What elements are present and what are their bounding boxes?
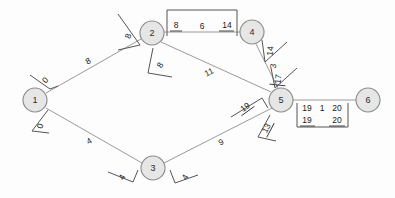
edge-weight-2-5: 11 xyxy=(203,65,216,78)
bracket-2-4-right-value: 14 xyxy=(222,20,232,30)
node-5[interactable]: 5 xyxy=(269,88,293,112)
node-4-label: 4 xyxy=(249,27,254,37)
bracket-5-6-top-mid: 1 xyxy=(320,103,325,113)
node-4[interactable]: 4 xyxy=(240,20,264,44)
annotation-n4-bottom: 17 xyxy=(273,74,284,85)
node-2-label: 2 xyxy=(149,28,154,38)
node-6-label: 6 xyxy=(365,95,370,105)
annotation-n5-bottom: 13 xyxy=(259,121,272,134)
annotation-n3-left: 4 xyxy=(116,172,127,181)
annotation-n2-bottom: 8 xyxy=(154,60,165,69)
node-1[interactable]: 1 xyxy=(23,88,47,112)
edge-weight-3-5: 9 xyxy=(217,136,226,147)
edge-1-3 xyxy=(46,108,142,163)
node-6[interactable]: 6 xyxy=(356,88,380,112)
edge-3-5 xyxy=(164,108,272,163)
graph-svg: 8 4 6 11 9 3 xyxy=(0,0,395,198)
node-1-label: 1 xyxy=(32,95,37,105)
annotation-n4-top: 14 xyxy=(265,46,276,57)
bracket-2-4-left-value: 8 xyxy=(174,20,179,30)
edge-weight-4-5: 3 xyxy=(268,63,278,69)
bracket-5-6-bottom-left: 19 xyxy=(302,115,312,125)
diagram-canvas: 8 4 6 11 9 3 xyxy=(0,0,395,198)
node-5-label: 5 xyxy=(278,95,283,105)
annotation-bracket-n2-left xyxy=(118,14,140,50)
annotation-n3-right: 4 xyxy=(179,172,190,181)
bracket-5-6-top-left: 19 xyxy=(302,103,312,113)
node-2[interactable]: 2 xyxy=(140,21,164,45)
edge-weight-1-2: 8 xyxy=(83,55,92,66)
edge-weight-2-4: 6 xyxy=(200,21,205,31)
node-3-label: 3 xyxy=(150,163,155,173)
edge-1-2 xyxy=(46,39,141,93)
edge-2-5 xyxy=(161,42,271,92)
annotation-n1-bottom: 0 xyxy=(34,122,45,130)
edge-weight-1-3: 4 xyxy=(84,135,93,146)
bracket-block-5-6: 19 1 20 19 20 xyxy=(297,103,348,127)
bracket-5-6-top-right: 20 xyxy=(332,103,342,113)
node-3[interactable]: 3 xyxy=(141,156,165,180)
bracket-5-6-bottom-right: 20 xyxy=(332,115,342,125)
